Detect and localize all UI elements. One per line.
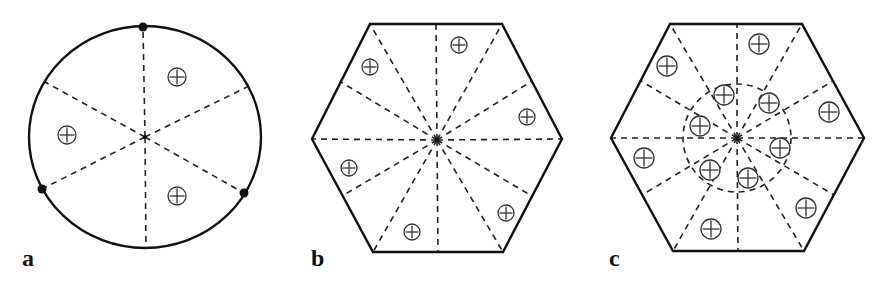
dashed-spoke — [370, 24, 437, 140]
plus-charge-icon — [498, 205, 514, 221]
plus-charge-icon — [58, 126, 76, 144]
dashed-spoke — [437, 81, 532, 140]
dashed-spoke — [437, 140, 532, 196]
dashed-spoke — [42, 137, 145, 189]
panel-label-c: c — [609, 246, 620, 270]
boundary-dot-icon — [38, 185, 47, 194]
plus-charge-icon — [770, 138, 790, 158]
panel-c-hexagon-diagram — [611, 24, 864, 251]
dashed-spoke — [437, 139, 562, 140]
center-dot — [735, 136, 739, 140]
plus-charge-icon — [341, 160, 357, 176]
dashed-spoke — [145, 137, 146, 248]
dashed-spoke — [341, 82, 437, 140]
dashed-spoke — [145, 137, 244, 193]
center-dot — [435, 138, 439, 142]
plus-charge-icon — [796, 198, 816, 218]
dashed-spoke — [737, 24, 802, 138]
boundary-dot-icon — [139, 23, 148, 32]
dashed-spoke — [312, 139, 437, 140]
figure-canvas — [0, 0, 884, 286]
plus-charge-icon — [168, 187, 186, 205]
plus-charge-icon — [519, 109, 535, 125]
plus-charge-icon — [701, 219, 721, 239]
dashed-spoke — [737, 81, 833, 138]
dashed-spoke — [737, 138, 804, 251]
plus-charge-icon — [749, 34, 769, 54]
dashed-spoke — [145, 87, 247, 137]
plus-charge-icon — [362, 59, 378, 75]
plus-charge-icon — [657, 56, 677, 76]
dashed-spoke — [437, 24, 502, 140]
plus-charge-icon — [451, 37, 467, 53]
plus-charge-icon — [819, 102, 839, 122]
plus-charge-icon — [634, 148, 654, 168]
plus-charge-icon — [168, 68, 186, 86]
plus-charge-icon — [738, 168, 758, 188]
plus-charge-icon — [759, 93, 779, 113]
boundary-dot-icon — [240, 189, 249, 198]
dashed-spoke — [437, 140, 503, 252]
dashed-spoke — [737, 138, 738, 251]
panel-a-circle-diagram — [29, 23, 261, 249]
center-dot — [143, 135, 147, 139]
dashed-spoke — [143, 27, 145, 137]
plus-charge-icon — [690, 116, 710, 136]
panel-label-a: a — [22, 246, 34, 270]
panel-label-b: b — [311, 246, 324, 270]
plus-charge-icon — [714, 85, 734, 105]
dashed-spoke — [642, 138, 737, 195]
plus-charge-icon — [404, 224, 420, 240]
plus-charge-icon — [700, 160, 720, 180]
dashed-spoke — [437, 140, 438, 252]
dashed-spoke — [436, 24, 437, 140]
panel-b-hexagon-diagram — [312, 24, 562, 252]
